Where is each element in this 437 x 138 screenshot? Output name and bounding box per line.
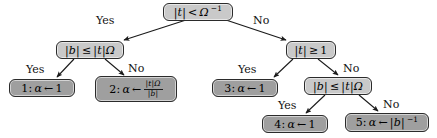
edge-root-to-left bbox=[124, 20, 186, 40]
leaf-3-value: 1 bbox=[258, 83, 265, 94]
node-leaf-3-text: 3: α ← 1 bbox=[224, 83, 265, 94]
edge-label-left-no: No bbox=[128, 62, 144, 75]
node-left-decision-text: |b| ≤ |t|Ω bbox=[65, 45, 115, 56]
leaf-4-var: α bbox=[287, 119, 295, 130]
edge-label-root-yes: Yes bbox=[96, 14, 114, 27]
leaf-2-denominator: |b| bbox=[146, 90, 160, 98]
edge-label-left-yes: Yes bbox=[26, 63, 44, 76]
root-op: < bbox=[188, 7, 197, 18]
edge-left-to-leaf2 bbox=[105, 59, 124, 75]
node-right-decision[interactable]: |t| ≥ 1 bbox=[286, 41, 336, 59]
node-leaf-2[interactable]: 2: α ← |t|Ω |b| bbox=[95, 76, 177, 102]
leaf-2-fraction: |t|Ω |b| bbox=[144, 80, 163, 98]
decision-tree-diagram: |t| < Ω−1 |b| ≤ |t|Ω |t| ≥ 1 |b| ≤ |t|Ω … bbox=[0, 0, 437, 138]
edge-right-to-subdecision bbox=[318, 59, 338, 75]
leaf-5-arrow: ← bbox=[378, 117, 387, 128]
edge-label-right-sub-yes: Yes bbox=[278, 99, 296, 112]
leaf-5-value-base: |b| bbox=[390, 117, 405, 128]
root-rhs-base: Ω bbox=[200, 7, 209, 18]
leaf-4-index: 4: bbox=[274, 119, 285, 130]
edge-left-to-leaf1 bbox=[57, 59, 74, 77]
node-root[interactable]: |t| < Ω−1 bbox=[163, 3, 233, 21]
right-decision-rhs: 1 bbox=[320, 45, 327, 56]
node-leaf-5[interactable]: 5: α ← |b|−1 bbox=[345, 113, 429, 132]
edge-subdecision-to-leaf4 bbox=[306, 95, 325, 113]
leaf-3-index: 3: bbox=[224, 83, 235, 94]
node-leaf-4[interactable]: 4: α ← 1 bbox=[262, 115, 328, 133]
node-leaf-1[interactable]: 1: α ← 1 bbox=[9, 79, 75, 97]
leaf-3-arrow: ← bbox=[247, 83, 256, 94]
node-leaf-4-text: 4: α ← 1 bbox=[274, 119, 315, 130]
node-root-text: |t| < Ω−1 bbox=[174, 7, 223, 18]
left-decision-lhs: |b| bbox=[65, 45, 80, 56]
right-sub-decision-op: ≤ bbox=[330, 81, 339, 92]
node-leaf-2-text: 2: α ← |t|Ω |b| bbox=[109, 80, 162, 98]
leaf-3-var: α bbox=[237, 83, 245, 94]
right-sub-decision-rhs: |t|Ω bbox=[341, 81, 363, 92]
right-decision-lhs: |t| bbox=[294, 45, 306, 56]
leaf-2-arrow: ← bbox=[132, 84, 141, 95]
edge-right-to-leaf3 bbox=[274, 59, 293, 77]
edge-label-root-no: No bbox=[253, 14, 269, 27]
right-sub-decision-lhs: |b| bbox=[313, 81, 328, 92]
leaf-5-index: 5: bbox=[356, 117, 367, 128]
node-leaf-1-text: 1: α ← 1 bbox=[21, 83, 62, 94]
leaf-1-var: α bbox=[34, 83, 42, 94]
edge-subdecision-to-leaf5 bbox=[359, 95, 378, 111]
leaf-5-var: α bbox=[369, 117, 377, 128]
node-right-decision-text: |t| ≥ 1 bbox=[294, 45, 327, 56]
edge-label-right-yes: Yes bbox=[238, 63, 256, 76]
left-decision-op: ≤ bbox=[82, 45, 91, 56]
leaf-1-index: 1: bbox=[21, 83, 32, 94]
edge-label-right-sub-no: No bbox=[383, 98, 399, 111]
node-left-decision[interactable]: |b| ≤ |t|Ω bbox=[56, 41, 124, 59]
right-decision-op: ≥ bbox=[309, 45, 318, 56]
leaf-4-arrow: ← bbox=[297, 119, 306, 130]
node-leaf-3[interactable]: 3: α ← 1 bbox=[212, 79, 278, 97]
node-right-sub-decision-text: |b| ≤ |t|Ω bbox=[313, 81, 363, 92]
leaf-2-index: 2: bbox=[109, 84, 120, 95]
leaf-1-arrow: ← bbox=[44, 83, 53, 94]
leaf-2-var: α bbox=[122, 84, 130, 95]
left-decision-rhs: |t|Ω bbox=[93, 45, 115, 56]
node-right-sub-decision[interactable]: |b| ≤ |t|Ω bbox=[304, 77, 372, 95]
node-leaf-5-text: 5: α ← |b|−1 bbox=[356, 117, 419, 128]
leaf-4-value: 1 bbox=[308, 119, 315, 130]
leaf-1-value: 1 bbox=[55, 83, 62, 94]
root-lhs: |t| bbox=[174, 7, 186, 18]
edge-label-right-no: No bbox=[343, 62, 359, 75]
